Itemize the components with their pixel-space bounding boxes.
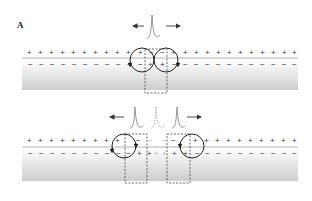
svg-text:−: − [61, 149, 66, 158]
svg-text:+: + [281, 136, 286, 145]
svg-text:+: + [104, 136, 109, 145]
svg-text:−: − [138, 60, 143, 69]
svg-text:+: + [115, 48, 120, 57]
svg-text:−: − [183, 60, 188, 69]
svg-text:−: − [72, 60, 77, 69]
axon-propagation-diagram: ++ ++ ++ ++ ++ + −− ++ ++ ++ ++ ++ ++ −−… [0, 0, 312, 201]
svg-text:−: − [216, 60, 221, 69]
svg-text:+: + [27, 48, 32, 57]
svg-text:+: + [49, 48, 54, 57]
top-panel: ++ ++ ++ ++ ++ + −− ++ ++ ++ ++ ++ ++ −−… [22, 15, 298, 93]
svg-text:+: + [259, 136, 264, 145]
svg-text:−: − [171, 136, 176, 145]
svg-text:+: + [292, 48, 297, 57]
svg-text:−: − [271, 60, 276, 69]
svg-text:−: − [227, 60, 232, 69]
svg-text:−: − [249, 60, 254, 69]
svg-text:−: − [105, 149, 110, 158]
svg-text:+: + [60, 48, 65, 57]
svg-text:+: + [194, 48, 199, 57]
svg-text:−: − [227, 149, 232, 158]
svg-text:+: + [183, 48, 188, 57]
svg-text:−: − [61, 60, 66, 69]
svg-text:−: − [105, 60, 110, 69]
svg-text:+: + [160, 60, 165, 69]
svg-text:−: − [39, 60, 44, 69]
action-potential-spike-right [172, 107, 185, 128]
svg-text:−: − [205, 149, 210, 158]
svg-text:−: − [136, 136, 141, 145]
svg-text:+: + [271, 48, 276, 57]
svg-text:−: − [260, 60, 265, 69]
svg-text:+: + [270, 136, 275, 145]
action-potential-spike-left [130, 107, 143, 128]
svg-text:−: − [39, 149, 44, 158]
svg-text:−: − [28, 149, 33, 158]
svg-text:−: − [216, 149, 221, 158]
svg-text:−: − [50, 149, 55, 158]
svg-text:−: − [238, 149, 243, 158]
svg-text:−: − [28, 60, 33, 69]
bottom-panel: ++ ++ ++ ++ + − − − − ++ ++ ++ ++ ++ −− … [22, 107, 298, 183]
svg-text:−: − [172, 60, 177, 69]
svg-text:+: + [282, 48, 287, 57]
svg-text:+: + [71, 136, 76, 145]
svg-text:+: + [138, 48, 143, 57]
svg-text:−: − [260, 149, 265, 158]
svg-text:+: + [147, 149, 152, 158]
svg-text:+: + [204, 136, 209, 145]
action-potential-spike [147, 15, 160, 38]
svg-text:−: − [94, 149, 99, 158]
svg-text:+: + [216, 48, 221, 57]
svg-text:−: − [83, 60, 88, 69]
svg-text:+: + [172, 149, 177, 158]
svg-text:−: − [194, 60, 199, 69]
svg-text:−: − [148, 136, 153, 145]
svg-text:+: + [227, 48, 232, 57]
svg-text:+: + [226, 136, 231, 145]
svg-text:+: + [193, 136, 198, 145]
svg-text:+: + [148, 60, 153, 69]
svg-text:−: − [282, 60, 287, 69]
svg-text:+: + [249, 48, 254, 57]
svg-text:−: − [72, 149, 77, 158]
svg-text:+: + [292, 136, 297, 145]
svg-text:+: + [154, 149, 159, 158]
svg-text:+: + [60, 136, 65, 145]
outside-charges: ++ ++ ++ ++ ++ + −− ++ ++ ++ ++ ++ ++ [27, 48, 297, 57]
outside-charges: ++ ++ ++ ++ + − − − − ++ ++ ++ ++ ++ [27, 136, 297, 145]
svg-text:+: + [38, 48, 43, 57]
svg-text:+: + [93, 136, 98, 145]
svg-text:+: + [237, 136, 242, 145]
svg-text:+: + [205, 48, 210, 57]
svg-text:−: − [282, 149, 287, 158]
svg-text:+: + [260, 48, 265, 57]
svg-text:+: + [27, 136, 32, 145]
svg-text:+: + [215, 136, 220, 145]
svg-text:+: + [38, 136, 43, 145]
svg-text:−: − [271, 149, 276, 158]
svg-text:+: + [162, 149, 167, 158]
svg-text:+: + [82, 136, 87, 145]
svg-text:−: − [292, 149, 297, 158]
svg-text:+: + [71, 48, 76, 57]
action-potential-spike-origin [151, 107, 164, 128]
svg-text:+: + [93, 48, 98, 57]
svg-text:+: + [126, 48, 131, 57]
svg-text:−: − [292, 60, 297, 69]
svg-text:−: − [205, 60, 210, 69]
svg-text:+: + [238, 48, 243, 57]
svg-text:+: + [82, 48, 87, 57]
svg-text:−: − [94, 60, 99, 69]
svg-text:+: + [104, 48, 109, 57]
svg-text:−: − [116, 60, 121, 69]
svg-text:+: + [248, 136, 253, 145]
svg-text:−: − [162, 136, 167, 145]
svg-text:−: − [238, 60, 243, 69]
svg-text:−: − [83, 149, 88, 158]
svg-text:−: − [249, 149, 254, 158]
svg-text:+: + [49, 136, 54, 145]
svg-text:−: − [50, 60, 55, 69]
svg-text:+: + [137, 149, 142, 158]
